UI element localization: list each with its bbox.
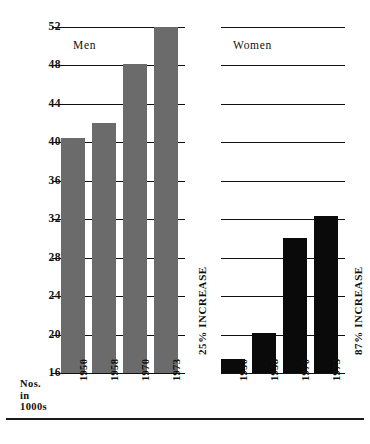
y-tick-mark-40 [52, 142, 61, 143]
gridline-48 [221, 65, 345, 66]
bar-men-1970 [123, 64, 147, 373]
y-tick-mark-32 [52, 219, 61, 220]
bar-women-1973 [314, 216, 338, 373]
panel-women: Women [221, 27, 345, 373]
x-tick-label-men-1970: 1970 [140, 359, 151, 381]
bar-women-1970 [283, 238, 307, 373]
y-tick-mark-36 [52, 181, 61, 182]
x-tick-label-men-1950: 1950 [78, 359, 89, 381]
unit-line-1: Nos. [20, 378, 47, 390]
y-tick-mark-24 [52, 296, 61, 297]
y-axis-unit-caption: Nos. in 1000s [20, 378, 47, 413]
y-tick-mark-16 [52, 373, 61, 374]
x-tick-label-women-1970: 1970 [300, 359, 311, 381]
gridline-52 [221, 27, 345, 28]
gridline-36 [221, 181, 345, 182]
y-tick-mark-48 [52, 65, 61, 66]
gridline-40 [221, 142, 345, 143]
y-tick-mark-20 [52, 335, 61, 336]
group-caption-women: Women [233, 39, 272, 51]
annotation-men-increase: 25% INCREASE [196, 266, 208, 355]
annotation-women-increase: 87% INCREASE [352, 266, 364, 355]
y-tick-mark-28 [52, 258, 61, 259]
unit-line-3: 1000s [20, 401, 47, 413]
panel-men: Men [61, 27, 185, 373]
group-caption-men: Men [73, 39, 96, 51]
gridline-44 [221, 104, 345, 105]
bar-men-1950 [61, 138, 85, 373]
x-tick-label-women-1958: 1958 [269, 359, 280, 381]
y-tick-mark-52 [52, 27, 61, 28]
y-tick-mark-44 [52, 104, 61, 105]
bar-men-1958 [92, 123, 116, 373]
bar-men-1973 [154, 27, 178, 373]
x-tick-label-women-1973: 1973 [331, 359, 342, 381]
bottom-divider [6, 418, 364, 420]
x-tick-label-men-1958: 1958 [109, 359, 120, 381]
x-tick-label-men-1973: 1973 [171, 359, 182, 381]
bar-chart-figure: 16202428323640444852 Men Women 25% INCRE… [0, 0, 370, 444]
unit-line-2: in [20, 390, 47, 402]
x-tick-label-women-1950: 1950 [238, 359, 249, 381]
